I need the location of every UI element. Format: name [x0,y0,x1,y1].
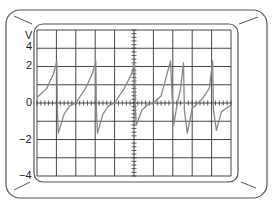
bevel-line-bl [14,182,30,190]
bevel-line-br [241,182,256,188]
y-tick-label-0: 0 [26,97,32,108]
y-tick-label-2: 2 [26,60,32,71]
y-tick-label-4: 4 [26,41,32,52]
y-tick-label-neg2: −2 [19,134,32,145]
y-tick-label-neg4: −4 [19,170,32,181]
oscilloscope-display [0,0,273,204]
bevel-line-tr [239,17,258,24]
bevel-line-tl [14,16,32,24]
